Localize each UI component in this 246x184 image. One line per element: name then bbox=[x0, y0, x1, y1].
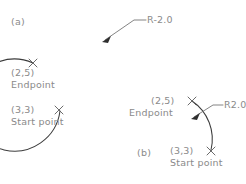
radius-leader-arrowhead-b bbox=[191, 113, 200, 120]
minor-arc-path-b bbox=[192, 101, 212, 150]
endpoint-caption-a: Endpoint bbox=[11, 79, 55, 90]
diagram-caption-b: (b) bbox=[137, 147, 151, 158]
endpoint-coordinate-a: (2,5) bbox=[11, 67, 35, 78]
radius-label-a: R-2.0 bbox=[147, 14, 173, 25]
start-point-coordinate-a: (3,3) bbox=[11, 104, 35, 115]
diagram-caption-a: (a) bbox=[11, 16, 25, 27]
endpoint-marker-a bbox=[29, 59, 37, 67]
radius-leader-arrowhead-a bbox=[102, 36, 111, 43]
radius-label-b: R2.0 bbox=[224, 99, 246, 110]
endpoint-caption-b: Endpoint bbox=[129, 107, 173, 118]
endpoint-marker-b bbox=[188, 97, 196, 105]
endpoint-coordinate-b: (2,5) bbox=[151, 95, 175, 106]
radius-leader-line-a bbox=[105, 20, 146, 40]
start-point-coordinate-b: (3,3) bbox=[170, 145, 194, 156]
start-point-caption-b: Start point bbox=[170, 157, 223, 168]
start-point-marker-a bbox=[55, 106, 63, 114]
technical-drawing-figure: (a) R-2.0 (2,5) Endpoint (3,3) Start poi… bbox=[0, 0, 246, 184]
start-point-caption-a: Start point bbox=[11, 116, 64, 127]
